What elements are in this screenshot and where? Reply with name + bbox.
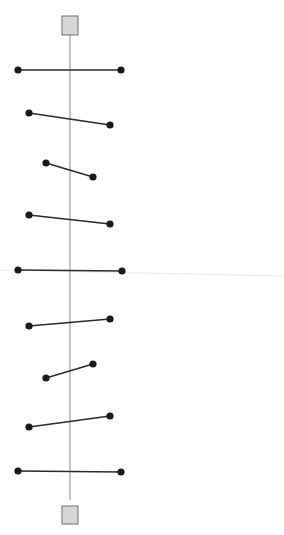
endpoint-dot-icon [25, 322, 32, 329]
endpoint-dot-icon [25, 109, 32, 116]
endpoint-dot-icon [14, 467, 21, 474]
endpoint-dot-icon [89, 360, 96, 367]
endpoint-dot-icon [106, 220, 113, 227]
endpoint-dot-icon [117, 66, 124, 73]
endpoint-dot-icon [25, 211, 32, 218]
endpoint-dot-icon [42, 374, 49, 381]
endpoint-dot-icon [14, 266, 21, 273]
endpoint-dot-icon [14, 66, 21, 73]
endpoint-dot-icon [25, 423, 32, 430]
spine-diagram [0, 0, 284, 535]
endpoint-dot-icon [118, 267, 125, 274]
endpoint-dot-icon [117, 468, 124, 475]
terminal-square-bottom [62, 506, 78, 524]
endpoint-dot-icon [106, 412, 113, 419]
segment-line [18, 471, 121, 472]
endpoint-dot-icon [89, 173, 96, 180]
endpoint-dot-icon [106, 315, 113, 322]
terminal-square-top [62, 16, 78, 35]
diagram-canvas [0, 0, 284, 535]
endpoint-dot-icon [106, 121, 113, 128]
segment-line [18, 270, 122, 271]
endpoint-dot-icon [42, 159, 49, 166]
